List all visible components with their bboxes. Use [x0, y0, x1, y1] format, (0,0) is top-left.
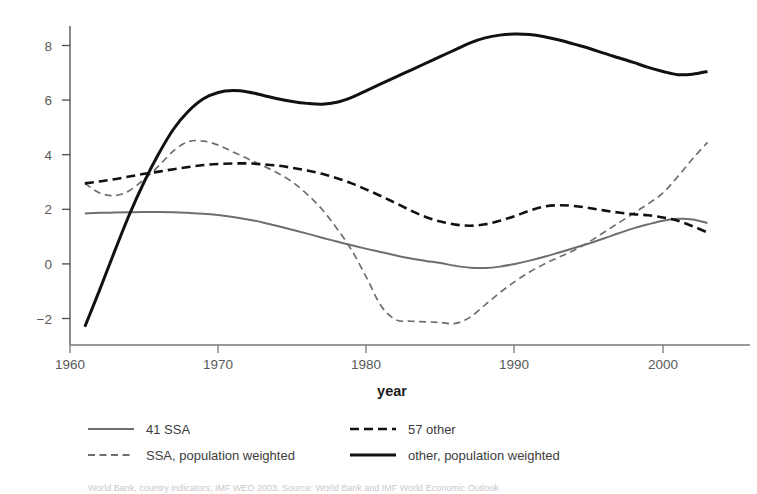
y-axis-tick-labels: 8 6 4 2 0 −2	[37, 39, 53, 327]
y-tick-label: 0	[44, 257, 52, 272]
legend-entry-label: other, population weighted	[408, 448, 560, 463]
figure-caption-text: World Bank, country indicators; IMF WEO …	[88, 483, 688, 494]
series-line	[85, 34, 708, 327]
line-chart: 8 6 4 2 0 −2 1960 1970 1980 1990 2000 ye…	[0, 0, 757, 494]
x-axis-title: year	[377, 383, 407, 399]
legend-entry-label: SSA, population weighted	[146, 448, 295, 463]
y-axis-ticks	[62, 46, 70, 319]
figure-container: 8 6 4 2 0 −2 1960 1970 1980 1990 2000 ye…	[0, 0, 757, 494]
x-axis-ticks	[70, 345, 663, 353]
x-tick-label: 1960	[55, 357, 85, 372]
y-tick-label: 4	[44, 148, 52, 163]
x-tick-label: 1970	[203, 357, 233, 372]
x-tick-label: 2000	[648, 357, 678, 372]
x-axis-tick-labels: 1960 1970 1980 1990 2000	[55, 357, 678, 372]
y-tick-label: 2	[44, 202, 52, 217]
legend-entry-label: 41 SSA	[146, 422, 190, 437]
y-tick-label: 8	[44, 39, 52, 54]
y-tick-label: 6	[44, 93, 52, 108]
legend-entry-1[interactable]: 57 other	[350, 422, 456, 437]
legend-entry-3[interactable]: other, population weighted	[350, 448, 560, 463]
legend-entry-label: 57 other	[408, 422, 456, 437]
figure-caption: World Bank, country indicators; IMF WEO …	[88, 483, 688, 494]
x-tick-label: 1990	[499, 357, 529, 372]
series-line	[85, 212, 708, 268]
x-tick-label: 1980	[351, 357, 381, 372]
series-line	[85, 141, 708, 324]
series-line	[85, 163, 708, 232]
series-layer	[85, 34, 708, 327]
legend-entry-2[interactable]: SSA, population weighted	[88, 448, 295, 463]
y-tick-label: −2	[37, 312, 52, 327]
legend-entry-0[interactable]: 41 SSA	[88, 422, 190, 437]
chart-legend: 41 SSA 57 other SSA, population weighted…	[88, 422, 560, 463]
